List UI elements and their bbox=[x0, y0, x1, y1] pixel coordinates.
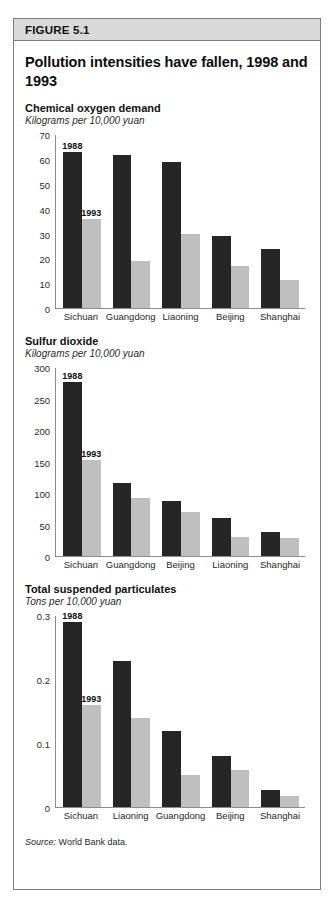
bar-1993 bbox=[280, 538, 299, 556]
chart-subtitle-2: Tons per 10,000 yuan bbox=[25, 596, 309, 607]
chart-title-0: Chemical oxygen demand bbox=[25, 102, 309, 114]
y-axis-1: 050100150200250300 bbox=[25, 368, 53, 557]
x-axis-labels-1: SichuanGuangdongBeijingLiaoningShanghai bbox=[56, 558, 305, 576]
y-tick-label: 100 bbox=[34, 489, 50, 500]
bar-1988 bbox=[261, 249, 280, 308]
bar-1988 bbox=[212, 756, 231, 807]
bar-1988 bbox=[162, 501, 181, 556]
bar-1993 bbox=[181, 775, 200, 807]
chart-panel-sulfur-dioxide: Sulfur dioxide Kilograms per 10,000 yuan… bbox=[25, 335, 309, 577]
y-tick-label: 50 bbox=[39, 179, 50, 190]
bar-group bbox=[156, 368, 206, 556]
x-tick-label: Shanghai bbox=[255, 809, 305, 827]
figure-number-label: FIGURE 5.1 bbox=[25, 24, 90, 36]
bar-group-container: 19881993 bbox=[57, 368, 305, 556]
bar-1993 bbox=[131, 261, 150, 308]
bar-1988 bbox=[212, 518, 231, 556]
x-tick-label: Beijing bbox=[205, 310, 255, 328]
bar-group bbox=[107, 135, 157, 308]
y-tick-label: 0 bbox=[45, 803, 50, 814]
bar-1993 bbox=[181, 512, 200, 556]
x-tick-label: Shanghai bbox=[255, 310, 305, 328]
bar-group bbox=[255, 616, 305, 807]
figure-body: Pollution intensities have fallen, 1998 … bbox=[14, 41, 320, 828]
plot-area-0: 19881993 bbox=[55, 135, 305, 309]
y-tick-label: 60 bbox=[39, 154, 50, 165]
series-label-1993: 1993 bbox=[81, 694, 101, 704]
bar-group-container: 19881993 bbox=[57, 135, 305, 308]
bar-1988 bbox=[113, 155, 132, 308]
bar-1988 bbox=[113, 661, 132, 807]
y-tick-label: 40 bbox=[39, 204, 50, 215]
y-tick-label: 0.1 bbox=[37, 739, 50, 750]
bar-1993 bbox=[231, 770, 250, 807]
bar-group bbox=[206, 616, 256, 807]
bar-1988 bbox=[162, 162, 181, 308]
figure-container: FIGURE 5.1 Pollution intensities have fa… bbox=[13, 18, 321, 890]
bar-group bbox=[206, 135, 256, 308]
source-prefix: Source: bbox=[25, 837, 56, 847]
bar-group bbox=[107, 368, 157, 556]
series-label-1988: 1988 bbox=[62, 371, 82, 381]
y-tick-label: 20 bbox=[39, 254, 50, 265]
y-tick-label: 150 bbox=[34, 457, 50, 468]
y-axis-0: 010203040506070 bbox=[25, 135, 53, 309]
y-tick-label: 30 bbox=[39, 229, 50, 240]
y-tick-label: 0 bbox=[45, 304, 50, 315]
bar-1993: 1993 bbox=[82, 705, 101, 807]
bar-1988 bbox=[212, 236, 231, 308]
chart-plot-2: 00.10.20.319881993SichuanLiaoningGuangdo… bbox=[25, 610, 309, 828]
y-tick-label: 0.2 bbox=[37, 675, 50, 686]
chart-title-1: Sulfur dioxide bbox=[25, 335, 309, 347]
figure-title: Pollution intensities have fallen, 1998 … bbox=[25, 53, 309, 90]
bar-1988 bbox=[162, 731, 181, 807]
x-tick-label: Liaoning bbox=[156, 310, 206, 328]
y-tick-label: 250 bbox=[34, 394, 50, 405]
y-tick-label: 50 bbox=[39, 520, 50, 531]
bar-group bbox=[255, 368, 305, 556]
bar-1993 bbox=[280, 280, 299, 308]
bar-group bbox=[206, 368, 256, 556]
x-axis-labels-2: SichuanLiaoningGuangdongBeijingShanghai bbox=[56, 809, 305, 827]
x-tick-label: Beijing bbox=[156, 558, 206, 576]
x-tick-label: Guangdong bbox=[106, 558, 156, 576]
series-label-1993: 1993 bbox=[81, 208, 101, 218]
bar-1993 bbox=[280, 796, 299, 807]
chart-subtitle-1: Kilograms per 10,000 yuan bbox=[25, 348, 309, 359]
bar-1993 bbox=[231, 266, 250, 308]
x-tick-label: Guangdong bbox=[106, 310, 156, 328]
bar-1988: 1988 bbox=[63, 622, 82, 807]
bar-group bbox=[156, 135, 206, 308]
x-tick-label: Sichuan bbox=[56, 809, 106, 827]
bar-group bbox=[255, 135, 305, 308]
bar-group-container: 19881993 bbox=[57, 616, 305, 807]
bar-1988: 1988 bbox=[63, 152, 82, 308]
figure-header: FIGURE 5.1 bbox=[14, 19, 320, 41]
bar-1993: 1993 bbox=[82, 460, 101, 556]
chart-title-2: Total suspended particulates bbox=[25, 583, 309, 595]
bar-1993: 1993 bbox=[82, 219, 101, 308]
bar-1993 bbox=[131, 498, 150, 556]
bar-1988 bbox=[261, 532, 280, 556]
bar-1993 bbox=[231, 537, 250, 556]
bar-group bbox=[107, 616, 157, 807]
chart-plot-1: 05010015020025030019881993SichuanGuangdo… bbox=[25, 362, 309, 577]
y-tick-label: 0.3 bbox=[37, 611, 50, 622]
chart-panel-chemical-oxygen-demand: Chemical oxygen demand Kilograms per 10,… bbox=[25, 102, 309, 329]
x-tick-label: Guangdong bbox=[156, 809, 206, 827]
x-tick-label: Sichuan bbox=[56, 310, 106, 328]
plot-area-1: 19881993 bbox=[55, 368, 305, 557]
bar-1993 bbox=[131, 718, 150, 807]
bar-1993 bbox=[181, 234, 200, 308]
x-axis-labels-0: SichuanGuangdongLiaoningBeijingShanghai bbox=[56, 310, 305, 328]
x-tick-label: Beijing bbox=[205, 809, 255, 827]
figure-source: Source: World Bank data. bbox=[14, 834, 320, 847]
y-tick-label: 10 bbox=[39, 279, 50, 290]
y-tick-label: 0 bbox=[45, 552, 50, 563]
y-tick-label: 70 bbox=[39, 130, 50, 141]
x-tick-label: Liaoning bbox=[106, 809, 156, 827]
bar-group: 19881993 bbox=[57, 616, 107, 807]
y-tick-label: 300 bbox=[34, 363, 50, 374]
chart-plot-0: 01020304050607019881993SichuanGuangdongL… bbox=[25, 129, 309, 329]
bar-group: 19881993 bbox=[57, 368, 107, 556]
